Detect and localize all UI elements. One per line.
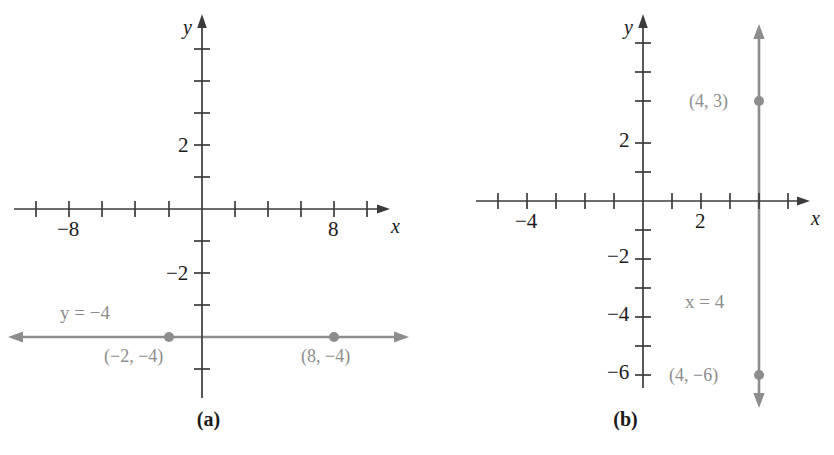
- point-label-4-3: (4, 3): [689, 92, 728, 110]
- panel-a-graph: y x −8 8 2 −2 y = −4 (−2, −4) (8, −4) (a…: [0, 0, 417, 455]
- point-4-3: [754, 96, 764, 106]
- point-4-minus6: [754, 370, 764, 380]
- y-axis-label: y: [183, 17, 192, 37]
- point-label-8-minus4: (8, −4): [301, 347, 350, 365]
- y-tick-label-2: 2: [619, 130, 630, 151]
- x-axis-label: x: [811, 208, 820, 228]
- point-label-minus2-minus4: (−2, −4): [104, 347, 163, 365]
- figure-root: y x −8 8 2 −2 y = −4 (−2, −4) (8, −4) (a…: [0, 0, 834, 455]
- panel-b-graph: y x −4 2 2 −2 −4 −6 x = 4 (4, 3) (4, −6)…: [417, 0, 834, 455]
- y-axis: [194, 14, 210, 398]
- panel-a-caption: (a): [0, 408, 417, 431]
- x-axis-label: x: [391, 216, 400, 236]
- y-axis-label: y: [624, 17, 633, 37]
- y-tick-label-minus-2: −2: [166, 263, 188, 284]
- point-label-4-minus6: (4, −6): [669, 366, 718, 384]
- x-tick-label-minus-8: −8: [57, 219, 79, 240]
- y-tick-label-minus-4: −4: [607, 304, 629, 325]
- y-tick-label-2: 2: [178, 135, 189, 156]
- y-tick-label-minus-6: −6: [607, 362, 629, 383]
- point-8-minus4: [329, 332, 339, 342]
- point-minus2-minus4: [164, 332, 174, 342]
- graph-line-x-equals-4: [753, 24, 764, 408]
- equation-label-y-equals-minus-4: y = −4: [60, 303, 110, 322]
- graph-line-y-equals-minus-4: [8, 332, 409, 343]
- x-tick-label-minus-4: −4: [515, 211, 537, 232]
- x-tick-label-8: 8: [328, 219, 339, 240]
- equation-label-x-equals-4: x = 4: [685, 292, 724, 311]
- y-tick-label-minus-2: −2: [607, 246, 629, 267]
- panel-b-caption: (b): [417, 408, 834, 431]
- panel-b-svg: [417, 0, 834, 455]
- x-tick-label-2: 2: [695, 211, 706, 232]
